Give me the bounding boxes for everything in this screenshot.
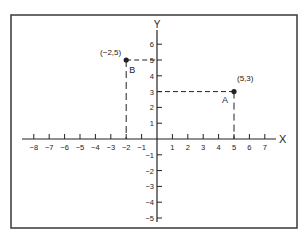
x-tick-label: −2 — [122, 143, 131, 152]
y-tick-label: −1 — [145, 151, 154, 160]
x-tick-label: −5 — [76, 143, 85, 152]
x-tick-label: 7 — [263, 143, 267, 152]
x-tick-label: 6 — [247, 143, 251, 152]
x-tick-label: 4 — [217, 143, 221, 152]
point-a-coordinates: (5,3) — [237, 74, 254, 83]
x-axis-label: X — [279, 133, 287, 145]
figure-frame — [11, 15, 297, 228]
dashed-projection-lines — [126, 60, 234, 139]
x-tick-label: 3 — [201, 143, 205, 152]
coordinate-plane-diagram: XY −8−7−6−5−4−3−2−11234567654321−1−2−3−4… — [0, 0, 306, 246]
point-a-label: A — [222, 95, 228, 105]
y-tick-label: 6 — [150, 40, 154, 49]
figure-caption-cropped — [10, 239, 300, 246]
x-tick-label: −7 — [45, 143, 54, 152]
point-b — [124, 57, 129, 62]
point-b-label: B — [129, 65, 135, 75]
y-tick-label: 2 — [150, 103, 154, 112]
x-tick-label: 2 — [186, 143, 190, 152]
y-tick-label: −3 — [145, 182, 154, 191]
y-tick-label: −2 — [145, 167, 154, 176]
x-tick-label: 1 — [170, 143, 174, 152]
axes: XY — [22, 19, 287, 222]
y-axis-label: Y — [154, 19, 161, 30]
points: (5,3)A(−2,5)B — [100, 48, 254, 105]
ticks: −8−7−6−5−4−3−2−11234567654321−1−2−3−4−5 — [30, 40, 267, 223]
point-a — [231, 89, 236, 94]
x-tick-label: −6 — [60, 143, 69, 152]
y-tick-label: 4 — [150, 72, 154, 81]
y-tick-label: −5 — [145, 214, 154, 223]
y-tick-label: 1 — [150, 119, 154, 128]
x-tick-label: −8 — [30, 143, 39, 152]
point-b-coordinates: (−2,5) — [100, 48, 121, 57]
y-tick-label: −4 — [145, 198, 154, 207]
x-tick-label: 5 — [232, 143, 236, 152]
y-tick-label: 3 — [150, 88, 154, 97]
x-tick-label: −3 — [107, 143, 116, 152]
x-tick-label: −4 — [91, 143, 100, 152]
